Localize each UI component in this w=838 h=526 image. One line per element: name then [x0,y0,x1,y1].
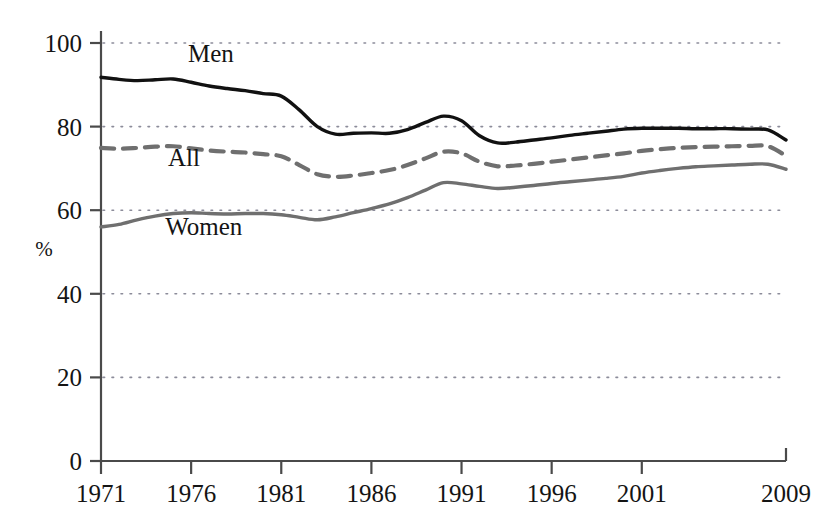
series-label-men: Men [188,40,234,67]
line-chart: 0204060801001971197619811986199119962001… [0,0,838,526]
axes [90,31,786,461]
y-tick-label-20: 20 [57,364,82,391]
series-line-men [101,77,786,143]
x-tick-label-2001: 2001 [617,480,667,507]
gridlines [103,43,786,377]
x-tick-label-1986: 1986 [346,480,396,507]
series-label-all: All [168,144,200,171]
y-tick-label-80: 80 [57,114,82,141]
y-tick-label-100: 100 [45,30,83,57]
series-label-women: Women [165,213,243,240]
x-tick-label-1991: 1991 [437,480,487,507]
x-tick-label-1971: 1971 [76,480,126,507]
x-tick-label-1981: 1981 [256,480,306,507]
x-tick-label-1996: 1996 [527,480,577,507]
y-tick-label-40: 40 [57,281,82,308]
y-axis-ticks: 020406080100 [45,30,102,475]
x-tick-label-2009: 2009 [761,480,811,507]
y-tick-label-60: 60 [57,197,82,224]
series-group [101,77,786,227]
y-axis-title: % [35,237,53,261]
series-line-all [101,145,786,176]
chart-container: 0204060801001971197619811986199119962001… [0,0,838,526]
y-tick-label-0: 0 [70,448,83,475]
x-axis-ticks: 19711976198119861991199620012009 [76,448,811,507]
x-tick-label-1976: 1976 [166,480,216,507]
